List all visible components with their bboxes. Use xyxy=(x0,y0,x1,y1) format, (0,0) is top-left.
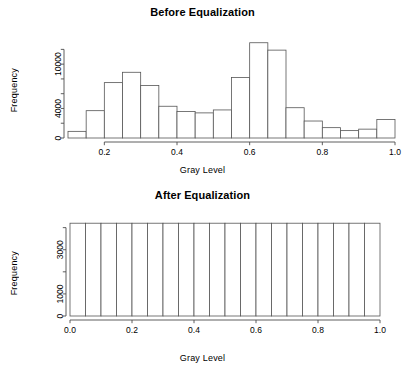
y-axis: 010003000 xyxy=(55,228,66,319)
histogram-bar xyxy=(68,131,86,138)
histogram-bar xyxy=(377,120,395,138)
plot-area-before: 04000100000.20.40.60.81.0 xyxy=(0,0,405,190)
histogram-bar xyxy=(272,223,288,316)
x-axis-label-before: Gray Level xyxy=(0,165,405,175)
histogram-bar xyxy=(286,108,304,138)
histogram-bar xyxy=(256,223,272,316)
histogram-bar xyxy=(104,83,122,138)
histogram-bar xyxy=(213,110,231,138)
x-tick-label: 0.0 xyxy=(64,325,76,335)
y-tick-label: 0 xyxy=(53,135,63,140)
histogram-bar xyxy=(159,106,177,138)
histogram-bar xyxy=(179,223,195,316)
x-tick-label: 0.8 xyxy=(316,147,328,157)
x-axis: 0.00.20.40.60.81.0 xyxy=(64,320,386,335)
y-tick-label: 1000 xyxy=(55,284,65,303)
histogram-bar xyxy=(304,121,322,138)
histogram-bar xyxy=(117,223,133,316)
chart-panel-after: After Equalization Frequency 0100030000.… xyxy=(0,183,405,383)
x-tick-label: 1.0 xyxy=(374,325,386,335)
y-tick-label: 0 xyxy=(55,313,65,318)
histogram-bar xyxy=(86,223,102,316)
histogram-bar xyxy=(287,223,303,316)
chart-panel-before: Before Equalization Frequency 0400010000… xyxy=(0,0,405,190)
histogram-bar xyxy=(359,129,377,138)
y-tick-label: 3000 xyxy=(55,240,65,259)
histogram-bar xyxy=(163,223,179,316)
y-axis: 0400010000 xyxy=(53,49,64,140)
histogram-bar xyxy=(268,50,286,138)
histogram-bar xyxy=(341,131,359,138)
histogram-bar xyxy=(195,113,213,138)
histogram-bar xyxy=(318,223,334,316)
histogram-bar xyxy=(123,72,141,138)
histogram-bars xyxy=(70,223,380,316)
x-tick-label: 0.4 xyxy=(188,325,200,335)
histogram-bar xyxy=(141,86,159,138)
histogram-bar xyxy=(241,223,257,316)
y-tick-label: 4000 xyxy=(53,99,63,118)
x-tick-label: 0.2 xyxy=(98,147,110,157)
x-tick-label: 0.8 xyxy=(312,325,324,335)
histogram-bars xyxy=(68,43,395,138)
histogram-bar xyxy=(334,223,350,316)
histogram-bar xyxy=(86,111,104,138)
histogram-bar xyxy=(303,223,319,316)
histogram-bar xyxy=(210,223,226,316)
x-axis: 0.20.40.60.81.0 xyxy=(98,142,401,157)
x-tick-label: 0.6 xyxy=(244,147,256,157)
x-tick-label: 0.4 xyxy=(171,147,183,157)
histogram-bar xyxy=(232,77,250,138)
y-tick-label: 10000 xyxy=(53,52,63,76)
histogram-bar xyxy=(177,111,195,138)
x-tick-label: 1.0 xyxy=(389,147,401,157)
histogram-bar xyxy=(349,223,365,316)
histogram-bar xyxy=(148,223,164,316)
histogram-bar xyxy=(250,43,268,138)
x-axis-label-after: Gray Level xyxy=(0,353,405,363)
histogram-bar xyxy=(70,223,86,316)
x-tick-label: 0.6 xyxy=(250,325,262,335)
histogram-bar xyxy=(194,223,210,316)
x-tick-label: 0.2 xyxy=(126,325,138,335)
histogram-bar xyxy=(365,223,381,316)
histogram-bar xyxy=(322,128,340,138)
histogram-bar xyxy=(132,223,148,316)
histogram-bar xyxy=(101,223,117,316)
histogram-bar xyxy=(225,223,241,316)
